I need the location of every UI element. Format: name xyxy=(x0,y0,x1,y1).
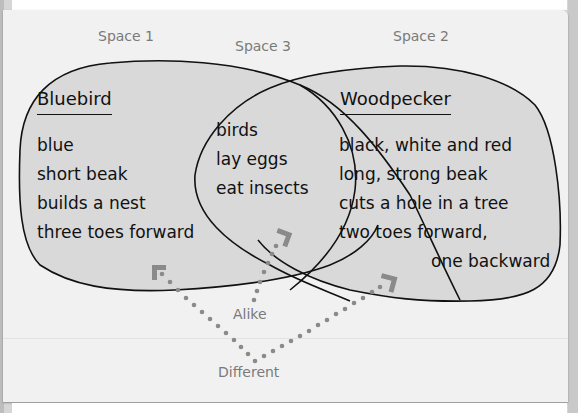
space-2-label: Space 2 xyxy=(393,28,449,44)
space-1-label: Space 1 xyxy=(98,28,154,44)
right-set-title: Woodpecker xyxy=(340,88,451,115)
list-item: short beak xyxy=(37,160,194,189)
list-item: black, white and red xyxy=(339,131,550,160)
right-set-list: black, white and red long, strong beak c… xyxy=(339,131,550,276)
list-item: cuts a hole in a tree xyxy=(339,189,550,218)
alike-label: Alike xyxy=(233,306,267,322)
list-item: lay eggs xyxy=(216,145,309,174)
list-item: two toes forward, xyxy=(339,218,550,247)
space-3-label: Space 3 xyxy=(235,38,291,54)
list-item: builds a nest xyxy=(37,189,194,218)
list-item: eat insects xyxy=(216,174,309,203)
list-item: long, strong beak xyxy=(339,160,550,189)
list-item: birds xyxy=(216,116,309,145)
list-item: blue xyxy=(37,131,194,160)
list-item: one backward xyxy=(339,247,550,276)
list-item: three toes forward xyxy=(37,218,194,247)
overlap-list: birds lay eggs eat insects xyxy=(216,116,309,203)
different-label: Different xyxy=(218,364,279,380)
left-set-title: Bluebird xyxy=(37,88,112,115)
left-set-list: blue short beak builds a nest three toes… xyxy=(37,131,194,247)
